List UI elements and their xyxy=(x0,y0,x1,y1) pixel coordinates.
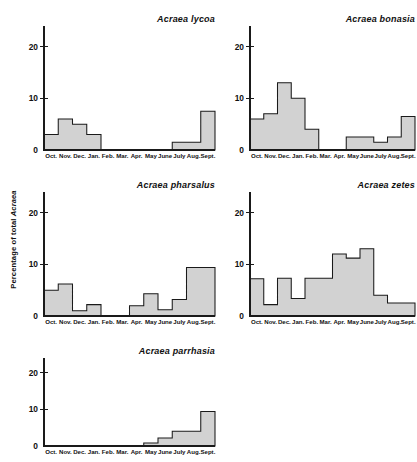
histogram-svg: 01020Oct.Nov.Dec.Jan.Feb.Mar.Apr.MayJune… xyxy=(22,174,217,332)
x-tick-label-month: Sept. xyxy=(401,152,416,159)
y-tick-label: 10 xyxy=(235,259,245,269)
histogram-bars xyxy=(44,267,215,316)
x-tick-label-month: Feb. xyxy=(102,152,115,159)
species-title: Acraea pharsalus xyxy=(137,180,215,190)
x-tick-label-month: Dec. xyxy=(278,152,291,159)
x-tick-label-month: Dec. xyxy=(73,152,86,159)
x-tick-label-month: Jan. xyxy=(292,318,305,325)
chart-panel: Acraea parrhasia01020Oct.Nov.Dec.Jan.Feb… xyxy=(22,340,217,462)
x-tick-label-month: May xyxy=(347,152,359,159)
y-tick-label: 0 xyxy=(33,145,38,155)
histogram-bars xyxy=(44,111,215,150)
x-tick-label-month: June xyxy=(360,152,375,159)
x-tick-label-month: June xyxy=(360,318,375,325)
x-tick-label-month: Jan. xyxy=(88,152,101,159)
x-tick-label-month: Jan. xyxy=(292,152,305,159)
x-tick-label-month: Aug. xyxy=(388,318,402,325)
x-tick-label-month: Feb. xyxy=(306,318,319,325)
x-tick-label-month: Nov. xyxy=(59,318,72,325)
x-tick-label-month: Sept. xyxy=(401,318,416,325)
histogram-svg: 01020Oct.Nov.Dec.Jan.Feb.Mar.Apr.MayJune… xyxy=(22,340,217,462)
x-tick-label-month: Nov. xyxy=(264,152,277,159)
chart-panel-inner: Acraea bonasia01020Oct.Nov.Dec.Jan.Feb.M… xyxy=(228,8,417,166)
x-tick-label-month: Feb. xyxy=(102,448,115,455)
y-tick-label: 20 xyxy=(29,368,39,378)
x-tick-label-month: Oct. xyxy=(45,448,57,455)
x-tick-label-month: July xyxy=(173,152,186,159)
x-tick-label-month: June xyxy=(158,152,173,159)
x-tick-label-month: Dec. xyxy=(73,448,86,455)
species-title: Acraea parrhasia xyxy=(139,346,215,356)
y-axis-label-genus: Acraea xyxy=(9,190,18,216)
species-title: Acraea zetes xyxy=(358,180,415,190)
histogram-svg: 01020Oct.Nov.Dec.Jan.Feb.Mar.Apr.MayJune… xyxy=(22,8,217,166)
x-tick-label-month: Mar. xyxy=(320,318,333,325)
x-tick-label-month: Mar. xyxy=(116,448,129,455)
x-tick-label-month: July xyxy=(173,448,186,455)
histogram-svg: 01020Oct.Nov.Dec.Jan.Feb.Mar.Apr.MayJune… xyxy=(228,174,417,332)
chart-panel: Acraea bonasia01020Oct.Nov.Dec.Jan.Feb.M… xyxy=(228,8,417,166)
x-tick-label-month: Apr. xyxy=(333,318,345,325)
x-tick-label-month: June xyxy=(158,448,173,455)
species-title: Acraea bonasia xyxy=(346,14,415,24)
chart-panel: Acraea pharsalus01020Oct.Nov.Dec.Jan.Feb… xyxy=(22,174,217,332)
x-tick-label-month: Aug. xyxy=(187,448,201,455)
x-tick-label-month: Mar. xyxy=(116,152,129,159)
x-tick-label-month: July xyxy=(375,318,388,325)
y-tick-label: 10 xyxy=(235,93,245,103)
x-tick-label-month: Nov. xyxy=(59,448,72,455)
chart-panel-inner: Acraea zetes01020Oct.Nov.Dec.Jan.Feb.Mar… xyxy=(228,174,417,332)
histogram-svg: 01020Oct.Nov.Dec.Jan.Feb.Mar.Apr.MayJune… xyxy=(228,8,417,166)
x-tick-label-month: May xyxy=(347,318,359,325)
y-axis-label-text: Percentage of total xyxy=(9,216,18,288)
histogram-bars xyxy=(44,412,215,446)
x-tick-label-month: July xyxy=(375,152,388,159)
histogram-bars xyxy=(250,83,415,150)
x-tick-label-month: June xyxy=(158,318,173,325)
x-tick-label-month: Aug. xyxy=(187,318,201,325)
x-tick-label-month: Nov. xyxy=(264,318,277,325)
y-tick-label: 10 xyxy=(29,259,39,269)
x-tick-label-month: May xyxy=(145,152,157,159)
x-tick-label-month: Sept. xyxy=(200,448,215,455)
x-tick-label-month: Sept. xyxy=(200,318,215,325)
x-tick-label-month: Jan. xyxy=(88,448,101,455)
y-tick-label: 10 xyxy=(29,404,39,414)
x-tick-label-month: Feb. xyxy=(306,152,319,159)
x-tick-label-month: Aug. xyxy=(388,152,402,159)
y-tick-label: 20 xyxy=(235,42,245,52)
x-tick-label-month: Dec. xyxy=(73,318,86,325)
figure-y-axis-label: Percentage of total Acraea xyxy=(9,175,18,305)
x-tick-label-month: Oct. xyxy=(45,318,57,325)
x-tick-label-month: Nov. xyxy=(59,152,72,159)
x-tick-label-month: Sept. xyxy=(200,152,215,159)
x-tick-label-month: Apr. xyxy=(333,152,345,159)
y-tick-label: 20 xyxy=(29,208,39,218)
y-tick-label: 0 xyxy=(239,145,244,155)
chart-panel-inner: Acraea lycoa01020Oct.Nov.Dec.Jan.Feb.Mar… xyxy=(22,8,217,166)
x-tick-label-month: Oct. xyxy=(251,152,263,159)
y-tick-label: 20 xyxy=(29,42,39,52)
species-title: Acraea lycoa xyxy=(157,14,215,24)
x-tick-label-month: Oct. xyxy=(251,318,263,325)
x-tick-label-month: Oct. xyxy=(45,152,57,159)
y-tick-label: 10 xyxy=(29,93,39,103)
x-tick-label-month: May xyxy=(145,448,157,455)
acraea-seasonality-figure: Percentage of total Acraea Acraea lycoa0… xyxy=(0,0,417,462)
x-tick-label-month: Jan. xyxy=(88,318,101,325)
y-tick-label: 0 xyxy=(33,441,38,451)
x-tick-label-month: July xyxy=(173,318,186,325)
chart-panel-inner: Acraea pharsalus01020Oct.Nov.Dec.Jan.Feb… xyxy=(22,174,217,332)
histogram-bars xyxy=(250,249,415,316)
x-tick-label-month: May xyxy=(145,318,157,325)
x-tick-label-month: Apr. xyxy=(131,152,143,159)
chart-panel: Acraea zetes01020Oct.Nov.Dec.Jan.Feb.Mar… xyxy=(228,174,417,332)
chart-panel-inner: Acraea parrhasia01020Oct.Nov.Dec.Jan.Feb… xyxy=(22,340,217,462)
y-tick-label: 20 xyxy=(235,208,245,218)
x-tick-label-month: Aug. xyxy=(187,152,201,159)
x-tick-label-month: Apr. xyxy=(131,318,143,325)
chart-panel: Acraea lycoa01020Oct.Nov.Dec.Jan.Feb.Mar… xyxy=(22,8,217,166)
x-tick-label-month: Dec. xyxy=(278,318,291,325)
x-tick-label-month: Feb. xyxy=(102,318,115,325)
y-tick-label: 0 xyxy=(33,311,38,321)
